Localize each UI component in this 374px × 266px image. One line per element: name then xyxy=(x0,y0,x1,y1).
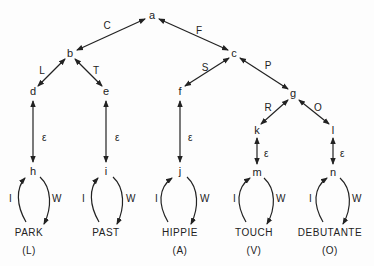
loop-label-W-i: W xyxy=(126,193,136,204)
loop-label-W-n: W xyxy=(352,193,362,204)
edge-label-epsilon-dh: ε xyxy=(42,132,47,143)
node-d: d xyxy=(30,85,36,97)
loop-label-I-n: I xyxy=(309,193,312,204)
loop-label-I-i: I xyxy=(82,193,85,204)
tree-diagram: a b c d e f g k l h i j m n C F L T S P … xyxy=(0,0,374,266)
loop-label-I-h: I xyxy=(9,193,12,204)
edge-label-L: L xyxy=(39,65,45,76)
loop-n xyxy=(316,178,349,224)
edge-label-S: S xyxy=(202,62,209,73)
node-j: j xyxy=(178,165,181,177)
leaf-code-debutante: (O) xyxy=(322,245,338,256)
node-g: g xyxy=(290,87,296,99)
edge-label-F: F xyxy=(196,25,202,36)
loop-label-W-h: W xyxy=(52,193,62,204)
loop-m xyxy=(239,178,273,224)
edge-label-epsilon-fj: ε xyxy=(188,132,193,143)
node-h: h xyxy=(30,165,36,177)
edge-label-O: O xyxy=(314,102,322,113)
edge-label-C: C xyxy=(103,20,110,31)
leaf-code-hippie: (A) xyxy=(173,245,188,256)
leaf-word-debutante: DEBUTANTE xyxy=(298,227,362,238)
edge-label-epsilon-km: ε xyxy=(264,148,269,159)
node-c: c xyxy=(231,47,237,59)
loop-label-I-j: I xyxy=(155,193,158,204)
loop-label-W-m: W xyxy=(276,193,286,204)
node-a: a xyxy=(149,9,156,21)
loop-label-I-m: I xyxy=(233,193,236,204)
leaf-word-hippie: HIPPIE xyxy=(162,227,198,238)
edge-label-P: P xyxy=(265,60,272,71)
node-k: k xyxy=(254,124,260,136)
edge-label-epsilon-ln: ε xyxy=(340,148,345,159)
edge-a-c xyxy=(159,19,228,50)
node-l: l xyxy=(332,124,334,136)
leaf-word-touch: TOUCH xyxy=(235,227,273,238)
node-f: f xyxy=(178,85,182,97)
node-i: i xyxy=(105,165,107,177)
leaf-word-past: PAST xyxy=(92,227,119,238)
node-e: e xyxy=(103,85,109,97)
edge-a-b xyxy=(77,19,145,50)
loop-i xyxy=(91,177,122,224)
loop-j xyxy=(161,177,197,224)
loop-label-W-j: W xyxy=(200,193,210,204)
node-b: b xyxy=(67,47,73,59)
leaf-code-park: (L) xyxy=(22,245,36,256)
edge-label-T: T xyxy=(93,65,99,76)
edge-label-R: R xyxy=(264,102,271,113)
leaf-code-touch: (V) xyxy=(247,245,262,256)
node-n: n xyxy=(330,166,336,178)
loop-h xyxy=(18,177,49,224)
leaf-word-park: PARK xyxy=(15,227,44,238)
node-m: m xyxy=(252,166,261,178)
edge-label-epsilon-ei: ε xyxy=(115,132,120,143)
